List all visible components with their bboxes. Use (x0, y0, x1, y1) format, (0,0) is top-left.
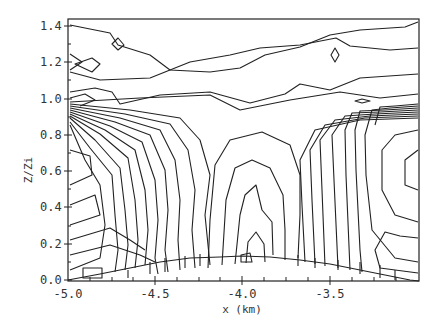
y-axis-title: Z/Zi (22, 157, 35, 184)
contour-lines (70, 22, 418, 280)
y-tick-label: 1.2 (40, 55, 62, 69)
plot-frame (68, 19, 419, 281)
x-tick-label: -3.5 (316, 287, 345, 301)
x-tick-label: -5.0 (54, 287, 83, 301)
y-tick-label: 1.4 (40, 19, 62, 33)
x-axis-title: x (km) (222, 303, 262, 316)
x-tick-label: -4.0 (228, 287, 257, 301)
terrain-stubs (128, 254, 395, 280)
y-tick-label: 1.0 (40, 92, 62, 106)
x-tick-label: -4.5 (141, 287, 170, 301)
x-axis: -5.0 -4.5 -4.0 -3.5 x (km) (54, 276, 396, 316)
y-tick-label: 0.4 (40, 200, 62, 214)
y-tick-label: 0.2 (40, 237, 62, 251)
y-tick-label: 0.6 (40, 164, 62, 178)
contour-chart: 0.0 0.2 0.4 0.6 0.8 1.0 1.2 1.4 Z/Zi -5.… (0, 0, 441, 330)
y-tick-label: 0.0 (40, 273, 62, 287)
terrain-hill (68, 256, 419, 281)
y-axis: 0.0 0.2 0.4 0.6 0.8 1.0 1.2 1.4 Z/Zi (22, 19, 72, 287)
y-tick-label: 0.8 (40, 128, 62, 142)
